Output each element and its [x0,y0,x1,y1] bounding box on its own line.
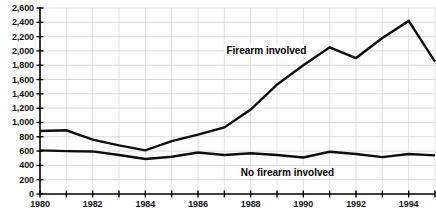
plot-svg [0,0,436,216]
line-chart: 02004006008001,0001,2001,4001,6001,8002,… [0,0,436,216]
series-label-firearm-involved: Firearm involved [224,45,308,56]
series-line-no-firearm-involved [40,150,435,159]
series-line-firearm-involved [40,21,435,150]
plot-area [0,0,436,216]
series-label-no-firearm-involved: No firearm involved [239,166,336,177]
